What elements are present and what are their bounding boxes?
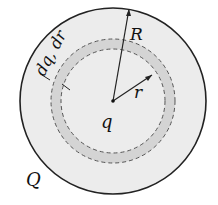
label-R: R bbox=[129, 24, 143, 44]
label-Q: Q bbox=[26, 169, 41, 190]
label-r: r bbox=[134, 82, 143, 102]
center-point bbox=[111, 99, 115, 103]
label-q: q bbox=[101, 111, 113, 132]
sphere-diagram: R r dq, dr q Q bbox=[0, 0, 218, 205]
